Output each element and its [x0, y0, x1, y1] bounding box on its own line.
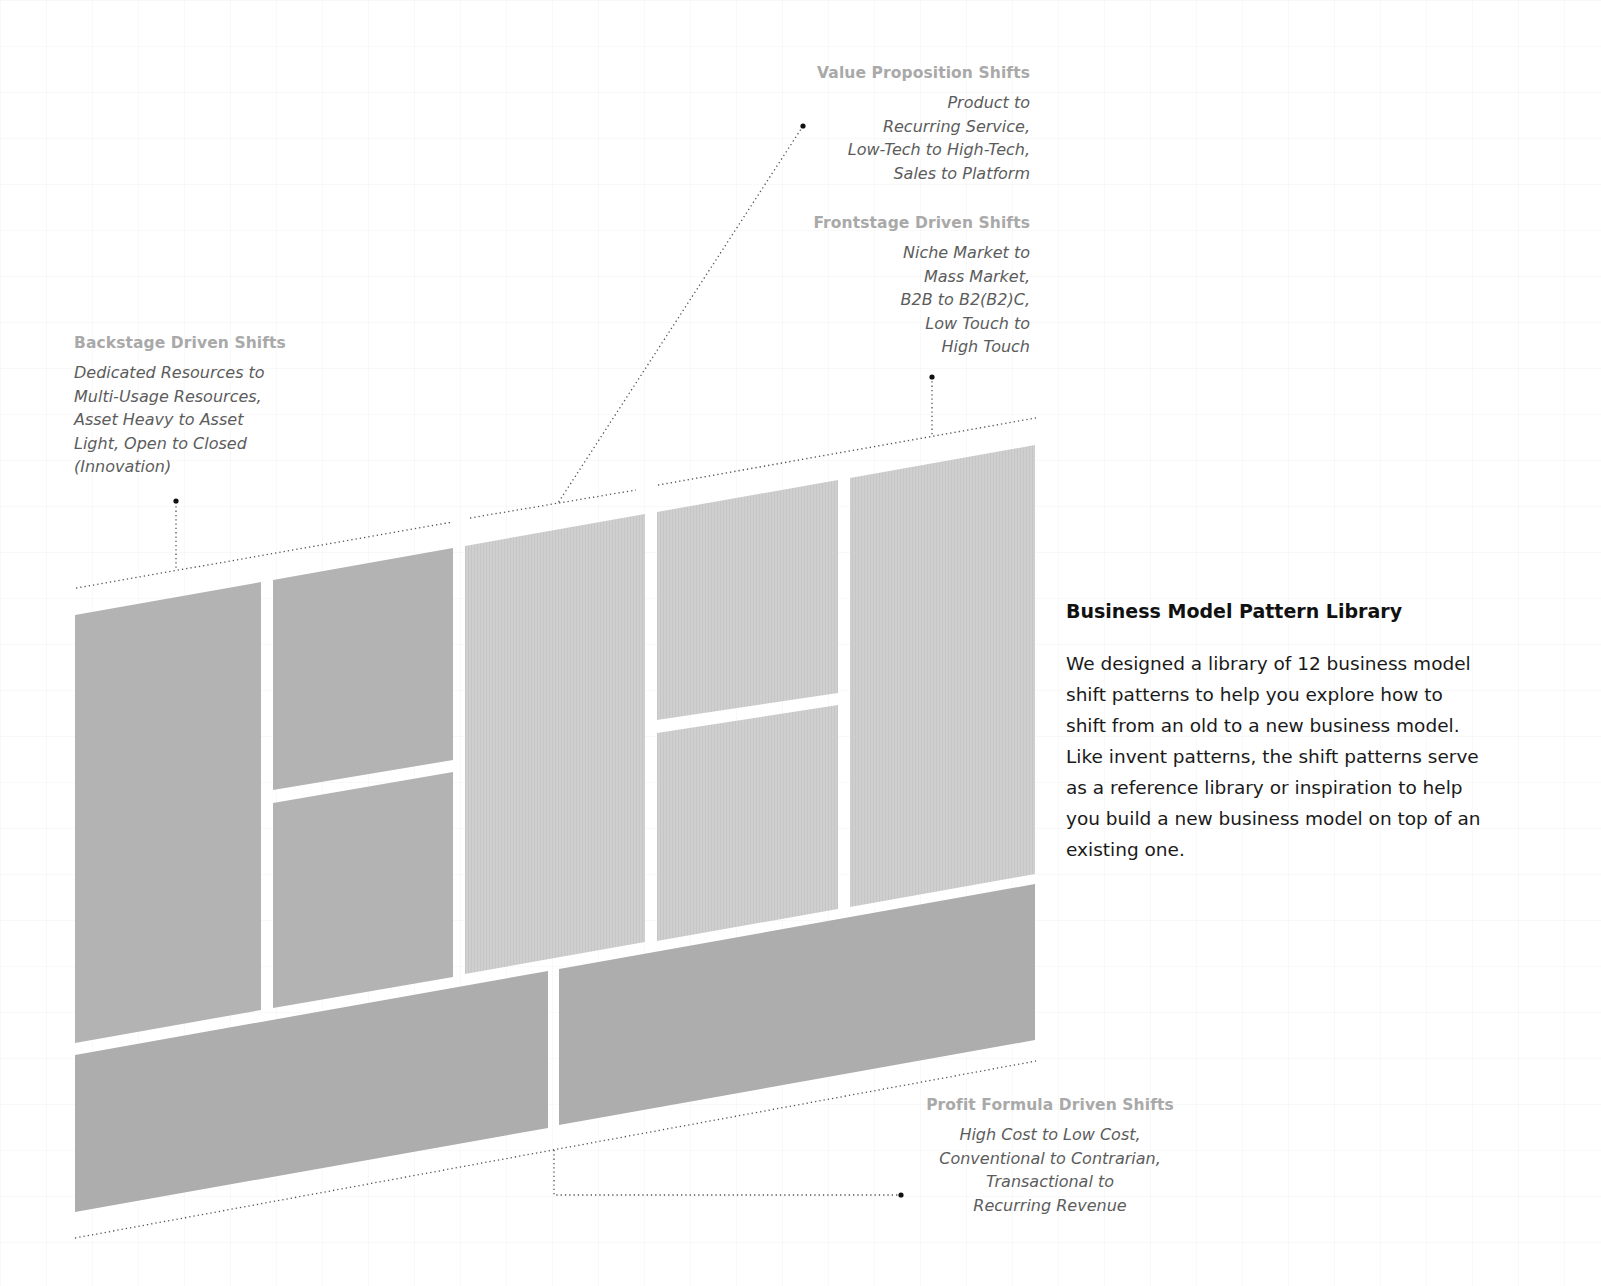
panel-body-line: existing one. — [1066, 834, 1556, 865]
frontstage-annotation: Frontstage Driven Shifts Niche Market to… — [813, 214, 1030, 359]
block-customer-relationships — [657, 480, 838, 720]
frontstage-title: Frontstage Driven Shifts — [813, 214, 1030, 232]
annotation-line: Conventional to Contrarian, — [900, 1147, 1200, 1171]
value-proposition-title: Value Proposition Shifts — [817, 64, 1030, 82]
annotation-line: Low-Tech to High-Tech, — [817, 138, 1030, 162]
annotation-line: B2B to B2(B2)C, — [813, 288, 1030, 312]
annotation-line: Mass Market, — [813, 265, 1030, 289]
annotation-line: Multi-Usage Resources, — [74, 385, 286, 409]
panel-body: We designed a library of 12 business mod… — [1066, 648, 1556, 865]
frontstage-leader-dot — [929, 374, 934, 379]
annotation-line: Recurring Revenue — [900, 1194, 1200, 1218]
panel-body-line: We designed a library of 12 business mod… — [1066, 648, 1556, 679]
annotation-line: Dedicated Resources to — [74, 361, 286, 385]
pattern-library-panel: Business Model Pattern Library We design… — [1066, 600, 1556, 865]
annotation-line: (Innovation) — [74, 455, 286, 479]
block-customer-segments — [850, 445, 1035, 907]
block-key-resources — [273, 772, 453, 1008]
profit-formula-annotation: Profit Formula Driven Shifts High Cost t… — [900, 1096, 1200, 1217]
panel-body-line: shift from an old to a new business mode… — [1066, 710, 1556, 741]
profit-leader — [554, 1150, 901, 1195]
annotation-line: Low Touch to — [813, 312, 1030, 336]
annotation-line: Light, Open to Closed — [74, 432, 286, 456]
block-channels — [657, 705, 838, 941]
value-proposition-guide-line — [470, 490, 636, 518]
value-proposition-leader-dot — [800, 123, 805, 128]
annotation-line: Transactional to — [900, 1170, 1200, 1194]
annotation-line: Product to — [817, 91, 1030, 115]
block-key-partners — [75, 582, 261, 1043]
panel-body-line: Like invent patterns, the shift patterns… — [1066, 741, 1556, 772]
annotation-line: Niche Market to — [813, 241, 1030, 265]
annotation-line: Sales to Platform — [817, 162, 1030, 186]
value-proposition-leader — [558, 126, 803, 503]
block-value-proposition — [465, 514, 645, 974]
annotation-line: High Touch — [813, 335, 1030, 359]
panel-title: Business Model Pattern Library — [1066, 600, 1556, 622]
panel-body-line: shift patterns to help you explore how t… — [1066, 679, 1556, 710]
block-key-activities — [273, 548, 453, 790]
backstage-leader-dot — [173, 498, 178, 503]
panel-body-line: you build a new business model on top of… — [1066, 803, 1556, 834]
panel-body-line: as a reference library or inspiration to… — [1066, 772, 1556, 803]
backstage-annotation: Backstage Driven Shifts Dedicated Resour… — [74, 334, 286, 479]
annotation-line: High Cost to Low Cost, — [900, 1123, 1200, 1147]
annotation-line: Recurring Service, — [817, 115, 1030, 139]
value-proposition-annotation: Value Proposition Shifts Product to Recu… — [817, 64, 1030, 185]
backstage-title: Backstage Driven Shifts — [74, 334, 286, 352]
profit-formula-title: Profit Formula Driven Shifts — [900, 1096, 1200, 1114]
annotation-line: Asset Heavy to Asset — [74, 408, 286, 432]
